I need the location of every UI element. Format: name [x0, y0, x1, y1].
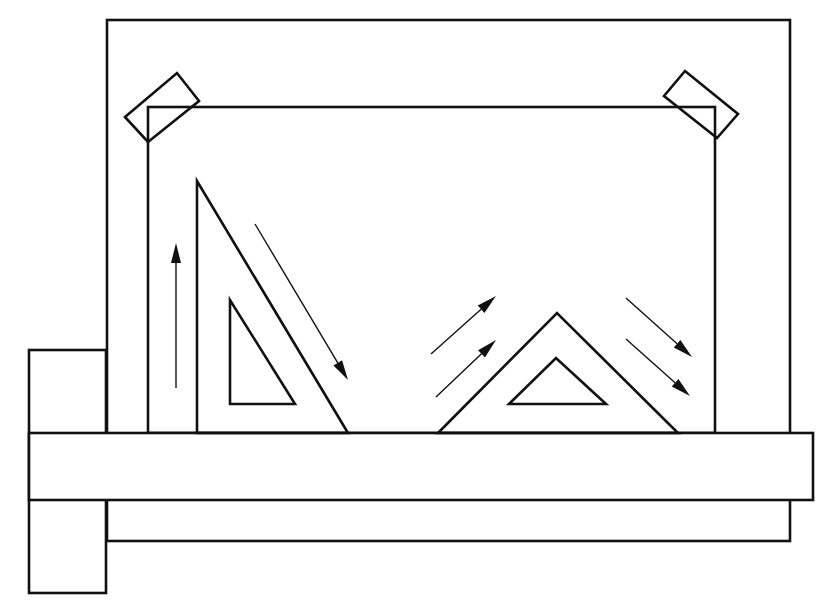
set-square-45-cutout — [509, 358, 606, 404]
set-square-45 — [438, 313, 678, 433]
drafting-diagram — [0, 0, 838, 610]
arrow-up-right-2-icon — [436, 340, 496, 397]
arrow-up-right-1-icon — [431, 296, 496, 354]
tape-top-right — [664, 71, 738, 138]
set-square-30-60 — [197, 181, 348, 433]
set-square-30-60-cutout — [230, 300, 295, 404]
t-square-blade — [29, 433, 813, 500]
arrow-up-icon — [171, 243, 181, 388]
